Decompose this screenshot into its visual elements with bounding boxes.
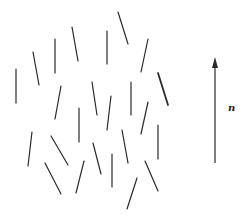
nematic-diagram: n — [0, 0, 242, 223]
rod-segment — [93, 143, 101, 174]
rod-segment — [33, 52, 39, 85]
rod-segment — [141, 39, 148, 72]
rod-segment — [51, 136, 68, 165]
rod-segment — [118, 12, 128, 44]
rod-segment — [28, 132, 32, 166]
rod-segment — [107, 96, 111, 130]
rod-segment — [122, 130, 128, 163]
rod-segment — [158, 73, 168, 105]
rod-segment — [145, 161, 158, 191]
director-arrow: n — [212, 57, 235, 163]
rod-segment — [72, 27, 78, 61]
rod-segment — [141, 102, 148, 134]
rod-segment — [45, 163, 61, 194]
rod-segment — [76, 161, 84, 193]
rod-segment — [127, 178, 137, 209]
rod-segments — [16, 12, 168, 209]
arrow-head-icon — [212, 57, 218, 68]
director-label: n — [228, 102, 235, 113]
rod-segment — [92, 82, 97, 115]
rod-segment — [55, 86, 61, 119]
